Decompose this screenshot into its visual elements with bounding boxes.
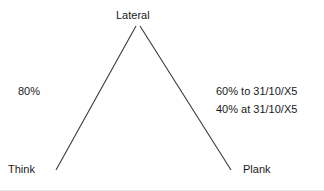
node-label-think: Think bbox=[8, 163, 35, 176]
diagram-canvas: Lateral Think Plank 80% 60% to 31/10/X5 … bbox=[0, 0, 324, 191]
node-label-plank: Plank bbox=[243, 163, 271, 176]
edge-annotation-right-percentage-to: 60% to 31/10/X5 bbox=[216, 85, 297, 98]
edge-annotation-right-percentage-at: 40% at 31/10/X5 bbox=[216, 103, 297, 116]
edge-annotation-left-percentage: 80% bbox=[18, 85, 40, 98]
edge-lateral-to-think bbox=[56, 26, 136, 170]
edge-lateral-to-plank bbox=[140, 26, 231, 170]
node-label-lateral: Lateral bbox=[116, 9, 150, 22]
